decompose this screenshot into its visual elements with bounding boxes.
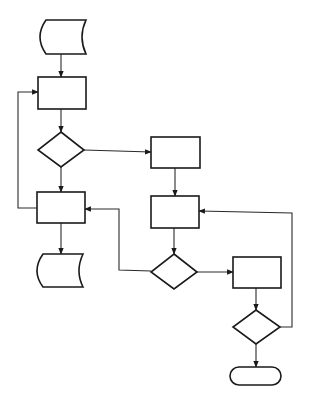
node-process-5[interactable] bbox=[233, 257, 281, 288]
process-box bbox=[151, 196, 199, 228]
flowchart-canvas bbox=[0, 0, 312, 405]
decision-diamond bbox=[233, 310, 280, 344]
process-box bbox=[151, 137, 200, 168]
node-process-1[interactable] bbox=[38, 77, 86, 109]
process-box bbox=[37, 192, 85, 223]
process-box bbox=[233, 257, 281, 288]
node-decision-2[interactable] bbox=[151, 254, 197, 289]
node-decision-3[interactable] bbox=[233, 310, 280, 344]
node-output-data[interactable] bbox=[37, 254, 83, 287]
node-decision-1[interactable] bbox=[38, 132, 84, 167]
stored-data-shape bbox=[40, 20, 86, 54]
node-process-2[interactable] bbox=[37, 192, 85, 223]
edge-decision-1-to-process-3 bbox=[84, 150, 151, 152]
edge-process-2-loop-to-process-1 bbox=[18, 92, 38, 208]
node-process-4[interactable] bbox=[151, 196, 199, 228]
node-process-3[interactable] bbox=[151, 137, 200, 168]
stored-data-shape bbox=[37, 254, 83, 287]
edge-decision-2-to-process-2 bbox=[85, 209, 151, 271]
decision-diamond bbox=[151, 254, 197, 289]
nodes bbox=[37, 20, 281, 385]
terminator-shape bbox=[230, 367, 281, 385]
decision-diamond bbox=[38, 132, 84, 167]
node-input-data[interactable] bbox=[40, 20, 86, 54]
node-end-terminator[interactable] bbox=[230, 367, 281, 385]
process-box bbox=[38, 77, 86, 109]
